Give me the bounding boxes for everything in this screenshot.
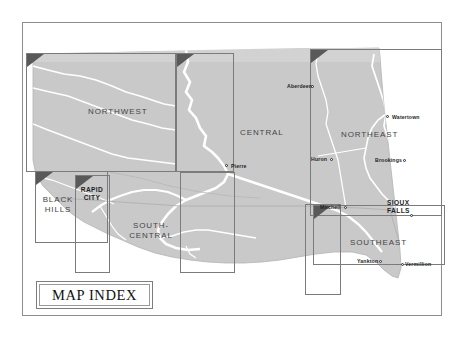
city-label-aberdeen: Aberdeen <box>287 83 312 89</box>
region-label-south-central-line1: SOUTH- <box>125 221 177 231</box>
city-label-rapid-city-line1: RAPID <box>76 186 108 194</box>
region-label-black-hills: BLACK HILLS <box>40 195 76 215</box>
corner-triangle-icon <box>27 54 44 67</box>
city-label-rapid-city-line2: CITY <box>76 194 108 202</box>
region-label-south-central: SOUTH- CENTRAL <box>125 221 177 240</box>
corner-triangle-icon <box>311 50 328 63</box>
city-label-pierre: Pierre <box>231 163 247 169</box>
map-index-plate: MAP INDEX <box>36 281 153 309</box>
inset-rect-central[interactable] <box>176 53 234 172</box>
city-label-mitchell: Mitchell <box>320 204 341 210</box>
map-index-plate-inner: MAP INDEX <box>39 284 150 306</box>
city-label-sioux-falls-line2: FALLS <box>387 207 427 215</box>
map-index-title: MAP INDEX <box>52 287 137 304</box>
city-label-watertown: Watertown <box>392 114 420 120</box>
city-label-sioux-falls: SIOUX FALLS <box>387 199 427 214</box>
region-label-central: CENTRAL <box>240 128 284 137</box>
city-label-vermillion: Vermillion <box>405 261 431 267</box>
region-label-northwest: NORTHWEST <box>88 107 148 116</box>
inset-rect-southeast[interactable] <box>313 205 445 265</box>
city-label-huron: Huron <box>311 156 327 162</box>
region-label-southeast: SOUTHEAST <box>350 238 407 247</box>
city-label-yankton: Yankton <box>357 258 378 264</box>
corner-triangle-icon <box>177 54 194 67</box>
city-label-rapid-city: RAPID CITY <box>76 186 108 201</box>
inset-rect-south-central[interactable] <box>180 172 235 273</box>
region-label-black-hills-line2: HILLS <box>40 205 76 215</box>
city-label-sioux-falls-line1: SIOUX <box>387 199 427 207</box>
region-label-black-hills-line1: BLACK <box>40 195 76 205</box>
region-label-northeast: NORTHEAST <box>341 130 398 139</box>
map-index-page: NORTHWEST CENTRAL NORTHEAST SOUTHEAST BL… <box>0 0 466 339</box>
city-label-brookings: Brookings <box>375 157 402 163</box>
corner-triangle-icon <box>36 172 53 185</box>
region-label-south-central-line2: CENTRAL <box>125 231 177 241</box>
